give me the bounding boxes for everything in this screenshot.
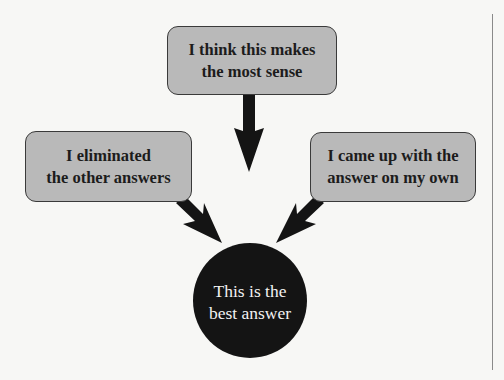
node-text-line: This is the xyxy=(209,280,291,302)
arrow-down-right-icon xyxy=(176,196,222,243)
margin-divider xyxy=(492,14,493,370)
node-text-line: best answer xyxy=(209,302,291,324)
node-text-line: answer on my own xyxy=(327,167,458,189)
arrow-down-icon xyxy=(234,94,264,172)
node-text-line: I came up with the xyxy=(327,145,458,167)
node-best-answer: This is the best answer xyxy=(193,243,307,358)
node-text-line: I eliminated xyxy=(46,145,170,167)
node-eliminated-others: I eliminated the other answers xyxy=(25,131,192,202)
node-came-up-on-own: I came up with the answer on my own xyxy=(310,132,476,202)
node-text-line: the most sense xyxy=(189,61,316,83)
diagram-canvas: I think this makes the most sense I elim… xyxy=(0,0,504,380)
node-text-line: I think this makes xyxy=(189,39,316,61)
node-text-line: the other answers xyxy=(46,167,170,189)
node-makes-most-sense: I think this makes the most sense xyxy=(167,26,337,95)
arrow-down-left-icon xyxy=(276,196,324,243)
